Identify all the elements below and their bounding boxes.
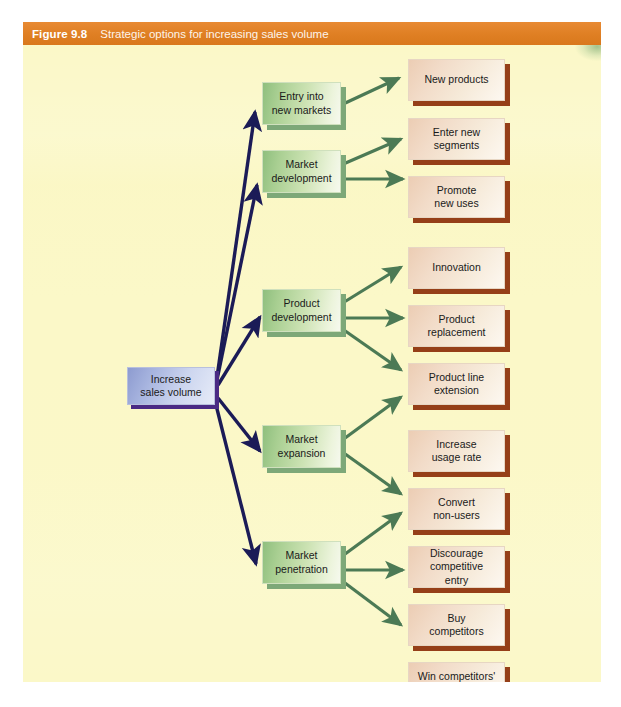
node-line-1: Increase <box>428 438 486 451</box>
node-label-product-development: Product development <box>263 297 339 323</box>
node-label-market-penetration: Market penetration <box>267 549 336 575</box>
node-line-1: Market <box>271 549 332 562</box>
node-line-2: expansion <box>274 447 330 460</box>
node-line-1: Innovation <box>428 261 484 274</box>
node-label-discourage-competitive-entry: Discourage competitive entry <box>409 547 504 586</box>
option-connectors <box>341 78 403 625</box>
node-label-win-competitors-customers: Win competitors' customers <box>410 670 503 682</box>
node-line-2: extension <box>425 384 488 397</box>
figure-container: Figure 9.8 Strategic options for increas… <box>0 0 621 707</box>
node-line-1: Market <box>274 433 330 446</box>
node-entry-into-new-markets[interactable]: Entry into new markets <box>262 82 341 125</box>
node-line-1: Product line <box>425 371 488 384</box>
node-label-new-products: New products <box>416 73 496 86</box>
figure-title: Strategic options for increasing sales v… <box>100 28 328 40</box>
node-line-2: development <box>267 172 335 185</box>
node-product-development[interactable]: Product development <box>262 289 341 332</box>
node-line-1: Buy <box>425 612 487 625</box>
node-market-development[interactable]: Market development <box>262 150 341 193</box>
connector-market-expansion-to-convert-non-users <box>341 451 401 494</box>
node-line-1: Market <box>267 158 335 171</box>
node-line-1: Product <box>267 297 335 310</box>
connector-root-to-entry-into-new-markets <box>217 112 255 377</box>
node-increase-usage-rate[interactable]: Increase usage rate <box>408 430 505 472</box>
node-line-1: Entry into <box>268 90 336 103</box>
connector-entry-into-new-markets-to-new-products <box>341 78 399 105</box>
node-line-2: competitors <box>425 625 487 638</box>
figure-title-bar: Figure 9.8 Strategic options for increas… <box>23 22 601 45</box>
node-line-1: Enter new <box>429 126 484 139</box>
node-line-2: sales volume <box>136 386 205 399</box>
node-innovation[interactable]: Innovation <box>408 247 505 289</box>
node-line-1: Discourage <box>413 547 500 560</box>
node-label-promote-new-uses: Promote new uses <box>426 184 486 210</box>
connector-root-to-market-expansion <box>218 398 260 451</box>
node-label-entry-into-new-markets: Entry into new markets <box>264 90 340 116</box>
root-connectors <box>216 112 260 564</box>
node-enter-new-segments[interactable]: Enter new segments <box>408 118 505 160</box>
node-buy-competitors[interactable]: Buy competitors <box>408 604 505 646</box>
node-label-increase-usage-rate: Increase usage rate <box>424 438 490 464</box>
node-increase-sales-volume[interactable]: Increase sales volume <box>127 367 215 405</box>
node-new-products[interactable]: New products <box>408 59 505 101</box>
connector-market-expansion-to-increase-usage-rate <box>341 397 401 441</box>
node-convert-non-users[interactable]: Convert non-users <box>408 488 505 530</box>
connector-product-development-to-product-line-extension <box>341 328 401 370</box>
node-label-increase-sales-volume: Increase sales volume <box>132 373 209 399</box>
node-line-1: New products <box>420 73 492 86</box>
connector-layer <box>23 45 601 682</box>
connector-market-development-to-enter-new-segments <box>341 139 401 165</box>
node-line-2: new markets <box>268 104 336 117</box>
node-discourage-competitive-entry[interactable]: Discourage competitive entry <box>408 546 505 588</box>
figure-number: Figure 9.8 <box>32 28 87 40</box>
node-market-penetration[interactable]: Market penetration <box>262 541 341 584</box>
node-line-1: Promote <box>430 184 482 197</box>
node-line-2: development <box>267 311 335 324</box>
node-label-product-line-extension: Product line extension <box>421 371 492 397</box>
node-line-2: new uses <box>430 197 482 210</box>
node-label-buy-competitors: Buy competitors <box>421 612 491 638</box>
node-product-replacement[interactable]: Product replacement <box>408 305 505 347</box>
node-line-1: Product <box>424 313 490 326</box>
node-line-1: Increase <box>136 373 205 386</box>
connector-root-to-product-development <box>218 317 260 385</box>
node-label-market-development: Market development <box>263 158 339 184</box>
node-product-line-extension[interactable]: Product line extension <box>408 363 505 405</box>
node-market-expansion[interactable]: Market expansion <box>262 425 341 468</box>
node-line-2: usage rate <box>428 451 486 464</box>
node-line-2: segments <box>429 139 484 152</box>
node-line-2: penetration <box>271 563 332 576</box>
node-label-innovation: Innovation <box>424 261 488 274</box>
node-line-1: Win competitors' <box>414 670 499 682</box>
node-label-product-replacement: Product replacement <box>420 313 494 339</box>
node-line-2: non-users <box>429 509 484 522</box>
node-promote-new-uses[interactable]: Promote new uses <box>408 176 505 218</box>
node-win-competitors-customers[interactable]: Win competitors' customers <box>408 662 505 682</box>
connector-root-to-market-development <box>217 185 257 380</box>
node-line-1: Convert <box>429 496 484 509</box>
diagram-canvas: Increase sales volume Entry into new mar… <box>23 45 601 682</box>
node-line-2: competitive entry <box>413 560 500 586</box>
node-label-convert-non-users: Convert non-users <box>425 496 488 522</box>
scan-artifact <box>575 45 601 61</box>
node-line-2: replacement <box>424 326 490 339</box>
connector-market-penetration-to-win-competitors-customers <box>341 580 401 625</box>
connector-root-to-market-penetration <box>216 405 256 564</box>
connector-product-development-to-innovation <box>341 267 401 304</box>
node-label-enter-new-segments: Enter new segments <box>425 126 488 152</box>
connector-market-penetration-to-discourage-competitive-entry <box>341 513 401 557</box>
node-label-market-expansion: Market expansion <box>270 433 334 459</box>
